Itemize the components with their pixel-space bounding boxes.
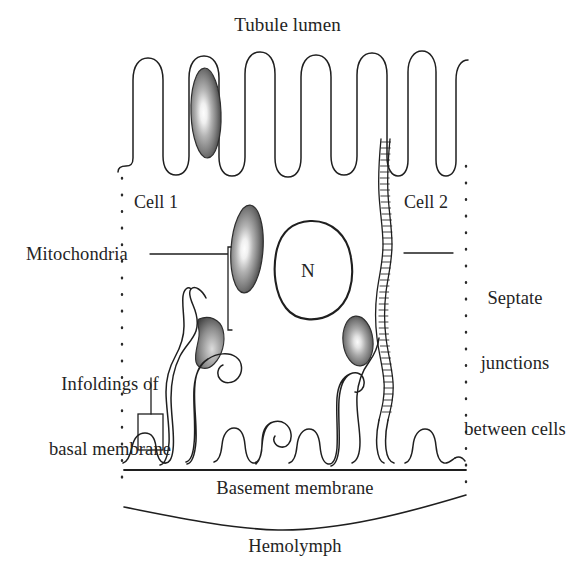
basement-membrane-label: Basement membrane (123, 478, 467, 500)
apical-microvilli-group (118, 51, 468, 177)
mitochondrion-basal-left (195, 317, 224, 368)
tubule-cell-diagram: Tubule lumen Cell 1 Cell 2 Mitochondria … (0, 0, 575, 579)
nucleus-label: N (292, 260, 324, 282)
cell-2-label: Cell 2 (404, 192, 448, 213)
septate-junctions-label-line2: junctions (456, 353, 574, 375)
septate-junction-membrane-right (385, 139, 394, 420)
microvilli-membrane-path (118, 51, 468, 177)
septate-junctions-label-line1: Septate (456, 288, 574, 310)
infoldings-label-line1: Infoldings of (30, 374, 190, 396)
mitochondria-label: Mitochondria (26, 244, 128, 266)
septate-junction-group (376, 139, 394, 420)
lumen-mitochondrion (189, 68, 222, 159)
mitochondrion-upper-left (228, 204, 266, 294)
tubule-lumen-label: Tubule lumen (0, 14, 575, 36)
septate-junction-rungs (379, 142, 393, 412)
septate-junctions-label: Septate junctions between cells (456, 244, 574, 484)
infoldings-label-line2: basal membrane (30, 439, 190, 461)
cell-1-label: Cell 1 (134, 192, 178, 213)
septate-junction-membrane-left (376, 139, 385, 420)
septate-junctions-label-line3: between cells (456, 419, 574, 441)
hemolymph-label: Hemolymph (123, 536, 467, 558)
